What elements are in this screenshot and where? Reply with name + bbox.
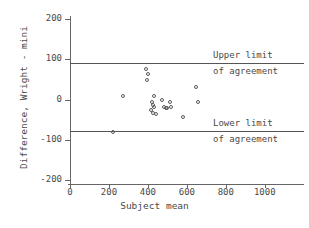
y-tick (65, 59, 70, 60)
data-point (154, 112, 158, 116)
lower-limit-of-agreement-label-bottom: of agreement (213, 134, 278, 145)
data-point (146, 72, 150, 76)
data-point (168, 100, 172, 104)
data-point (121, 94, 125, 98)
data-point (152, 94, 156, 98)
lower-limit-of-agreement-label-top: Lower limit (213, 118, 273, 129)
y-axis-line (70, 16, 71, 184)
data-point (111, 130, 115, 134)
upper-limit-of-agreement-label-bottom: of agreement (213, 66, 278, 77)
data-point (194, 85, 198, 89)
data-point (160, 98, 164, 102)
y-axis-title: Difference, Wright - mini (18, 13, 29, 183)
x-tick-label: 400 (128, 188, 168, 197)
y-tick (65, 140, 70, 141)
x-tick-label: 0 (50, 188, 90, 197)
data-point (144, 67, 148, 71)
x-tick-label: 600 (167, 188, 207, 197)
data-point (145, 78, 149, 82)
data-point (181, 115, 185, 119)
data-point (196, 100, 200, 104)
y-tick (65, 180, 70, 181)
y-tick (65, 100, 70, 101)
x-tick-label: 800 (206, 188, 246, 197)
upper-limit-of-agreement-line (70, 63, 304, 64)
upper-limit-of-agreement-label-top: Upper limit (213, 50, 273, 61)
data-point (169, 105, 173, 109)
y-tick (65, 19, 70, 20)
bland-altman-chart: 2001000-100-200 02004006008001000 Upper … (0, 0, 309, 228)
x-tick-label: 1000 (245, 188, 285, 197)
x-tick-label: 200 (89, 188, 129, 197)
x-axis-title: Subject mean (0, 200, 309, 211)
lower-limit-of-agreement-line (70, 131, 304, 132)
